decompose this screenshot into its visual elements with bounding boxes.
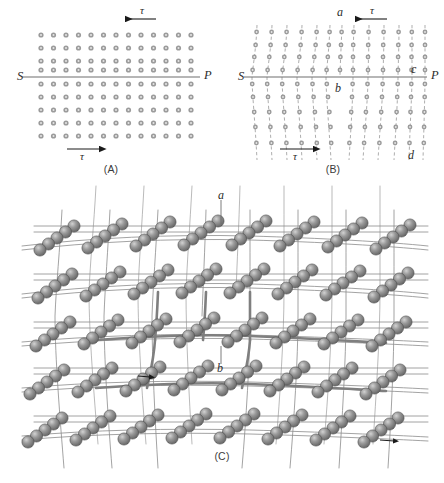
lattice-dots-a [38, 32, 193, 138]
tau-bottom-label-a: τ [80, 150, 84, 162]
label-b-c: b [217, 361, 223, 376]
panel-a-caption: (A) [0, 163, 222, 175]
panel-a: S P τ τ (A) [0, 0, 222, 190]
label-c-b: c [411, 62, 416, 77]
panel-c-graphic [0, 188, 444, 483]
label-p-b: P [431, 68, 439, 83]
label-s-b: S [238, 69, 244, 84]
panel-b-caption: (B) [222, 163, 444, 175]
label-a-b: a [337, 5, 343, 20]
lattice-bonds-c [22, 186, 428, 468]
label-s-a: S [17, 69, 23, 84]
panel-a-graphic [0, 0, 222, 190]
label-b-b: b [335, 81, 341, 96]
lattice-atoms-c [22, 215, 416, 448]
label-a-c: a [218, 188, 224, 203]
tau-bottom-label-b: τ [293, 150, 297, 162]
tau-top-label-b: τ [370, 4, 374, 16]
burgers-arrow-right-c [380, 440, 394, 441]
figure-container: S P τ τ (A) [0, 0, 444, 483]
panel-c-caption: (C) [0, 450, 444, 462]
panel-b: S P τ τ a b c d (B) [222, 0, 444, 190]
panel-c: a b (C) [0, 188, 444, 483]
label-p-a: P [204, 68, 212, 83]
tau-top-label-a: τ [140, 4, 144, 16]
label-d-b: d [408, 148, 414, 163]
